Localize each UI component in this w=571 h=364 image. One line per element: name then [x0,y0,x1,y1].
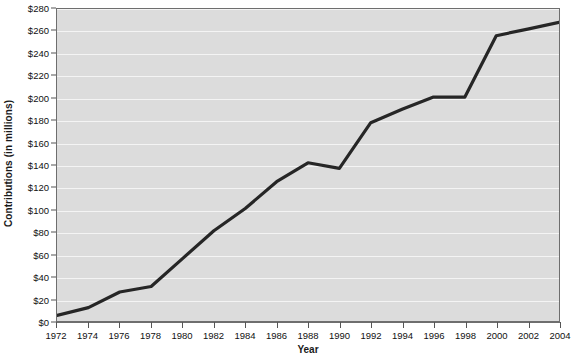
x-tick-label: 1992 [360,330,381,341]
plot-area [56,8,560,322]
x-tick-mark [214,322,215,328]
x-tick-mark [434,322,435,328]
x-tick-label: 1988 [297,330,318,341]
x-tick-mark [182,322,183,328]
x-tick-label: 1972 [45,330,66,341]
x-tick-mark [88,322,89,328]
x-tick-mark [371,322,372,328]
y-tick-label: $120 [28,182,49,193]
y-tick-label: $140 [28,160,49,171]
x-tick-mark [529,322,530,328]
x-axis-title: Year [56,344,560,355]
series-line-contributions [57,9,559,321]
y-tick-label: $200 [28,92,49,103]
x-tick-label: 1984 [234,330,255,341]
x-tick-label: 1998 [455,330,476,341]
y-tick-label: $180 [28,115,49,126]
y-axis-tick-labels: $0$20$40$60$80$100$120$140$160$180$200$2… [16,0,56,326]
y-tick-label: $280 [28,3,49,14]
x-tick-mark [403,322,404,328]
x-tick-label: 2004 [549,330,570,341]
y-tick-label: $240 [28,47,49,58]
x-tick-label: 2000 [486,330,507,341]
x-tick-mark [308,322,309,328]
x-tick-label: 1982 [203,330,224,341]
x-tick-label: 1994 [392,330,413,341]
x-tick-mark [560,322,561,328]
y-tick-label: $260 [28,25,49,36]
y-tick-label: $40 [33,272,49,283]
x-tick-mark [340,322,341,328]
x-tick-label: 1990 [329,330,350,341]
x-tick-mark [277,322,278,328]
x-tick-mark [151,322,152,328]
x-tick-label: 1974 [77,330,98,341]
y-tick-label: $80 [33,227,49,238]
y-axis-title-label: Contributions (in millions) [4,99,15,226]
x-tick-label: 1978 [140,330,161,341]
x-tick-mark [466,322,467,328]
x-tick-mark [245,322,246,328]
x-tick-label: 2002 [518,330,539,341]
y-tick-label: $20 [33,294,49,305]
x-tick-label: 1986 [266,330,287,341]
x-tick-mark [56,322,57,328]
x-tick-label: 1996 [423,330,444,341]
x-tick-mark [497,322,498,328]
y-tick-label: $100 [28,204,49,215]
data-line [57,22,559,315]
y-tick-label: $0 [38,317,49,328]
y-tick-label: $60 [33,249,49,260]
y-tick-label: $160 [28,137,49,148]
x-tick-label: 1980 [171,330,192,341]
y-tick-label: $220 [28,70,49,81]
x-tick-label: 1976 [108,330,129,341]
x-tick-mark [119,322,120,328]
x-axis-tick-labels: 1972197419761978198019821984198619881990… [56,322,560,362]
